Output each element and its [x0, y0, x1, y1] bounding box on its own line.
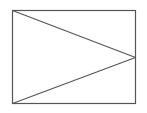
diagonal-line-bottom: [13, 58, 136, 104]
rectangle-frame: [13, 11, 136, 104]
diagram-canvas: [0, 0, 147, 113]
diagonal-line-top: [13, 11, 136, 58]
